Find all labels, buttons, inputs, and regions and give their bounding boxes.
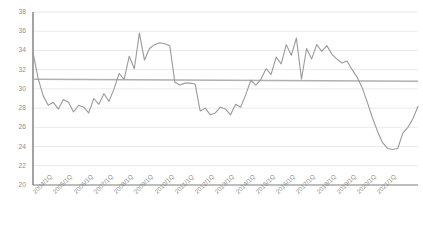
- y-axis-tick-label: 24: [4, 143, 26, 150]
- y-axis-tick-label: 30: [4, 85, 26, 92]
- y-axis-tick-label: 38: [4, 8, 26, 15]
- chart-plot-area: [0, 0, 423, 234]
- y-axis-tick-label: 28: [4, 104, 26, 111]
- y-axis-tick-label: 36: [4, 27, 26, 34]
- y-axis-tick-label: 22: [4, 162, 26, 169]
- y-axis-tick-label: 32: [4, 66, 26, 73]
- y-axis-tick-label: 34: [4, 46, 26, 53]
- y-axis-tick-label: 20: [4, 181, 26, 188]
- chart-container: 383634323028262422202004/1Q2005/1Q2006/1…: [0, 0, 423, 234]
- y-axis-tick-label: 26: [4, 123, 26, 130]
- trend-line: [33, 79, 418, 81]
